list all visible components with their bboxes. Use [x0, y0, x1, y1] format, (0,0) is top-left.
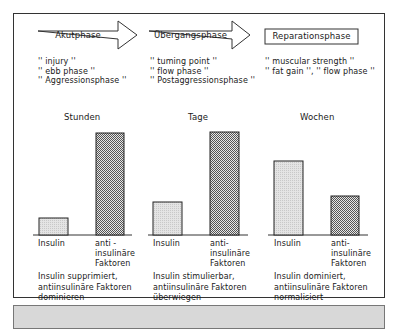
bar-label-line: insulinäre	[210, 249, 250, 259]
description-akutphase: Insulin supprimiert, antiinsulinäre Fakt…	[38, 272, 132, 304]
bar-label-line: anti-	[331, 239, 371, 249]
description-line: überwiegen	[153, 293, 247, 304]
quote-item: '' fat gain '', '' flow phase ''	[265, 67, 375, 77]
bar-insulin-stunden	[39, 218, 68, 235]
bar-insulin-tage	[153, 202, 182, 235]
bar-label-anti: anti - insulinäre Faktoren	[95, 239, 135, 269]
description-line: normalisiert	[274, 293, 368, 304]
quote-item: '' injury ''	[38, 57, 127, 67]
time-unit-wochen: Wochen	[300, 112, 334, 122]
description-line: Insulin dominiert,	[274, 272, 368, 283]
bar-label-line: anti-	[210, 239, 250, 249]
description-line: Insulin stimulierbar,	[153, 272, 247, 283]
bar-label-anti: anti- insulinäre Faktoren	[331, 239, 371, 269]
description-line: antiinsulinäre Faktoren	[153, 283, 247, 294]
description-line: antiinsulinäre Faktoren	[38, 283, 132, 294]
quote-item: '' tuming point ''	[150, 57, 255, 67]
caption-bar	[13, 305, 385, 329]
bar-insulin-wochen	[274, 161, 303, 235]
bar-anti-stunden	[96, 133, 124, 235]
bar-label-line: insulinäre	[331, 249, 371, 259]
time-unit-tage: Tage	[188, 112, 208, 122]
description-line: dominieren	[38, 293, 132, 304]
quotes-reparationsphase: '' muscular strength '' '' fat gain '', …	[265, 57, 375, 76]
phase-label-uebergangsphase: Übergangsphase	[149, 30, 232, 40]
bar-label-line: anti -	[95, 239, 135, 249]
bar-label-line: insulinäre	[95, 249, 135, 259]
quotes-akutphase: '' injury '' '' ebb phase '' '' Aggressi…	[38, 57, 127, 86]
quote-item: '' flow phase ''	[150, 67, 255, 77]
description-uebergangsphase: Insulin stimulierbar, antiinsulinäre Fak…	[153, 272, 247, 304]
description-line: Insulin supprimiert,	[38, 272, 132, 283]
bar-label-insulin: Insulin	[38, 239, 65, 249]
bar-label-insulin: Insulin	[153, 239, 180, 249]
bar-anti-wochen	[331, 196, 359, 235]
quotes-uebergangsphase: '' tuming point '' '' flow phase '' '' P…	[150, 57, 255, 86]
description-line: antiinsulinäre Faktoren	[274, 283, 368, 294]
quote-item: '' muscular strength ''	[265, 57, 375, 67]
bar-label-line: Faktoren	[210, 259, 250, 269]
phase-label-reparationsphase: Reparationsphase	[265, 31, 358, 41]
bar-anti-tage	[210, 132, 239, 235]
bar-label-insulin: Insulin	[274, 239, 301, 249]
quote-item: '' Postaggressionsphase ''	[150, 76, 255, 86]
bar-label-line: Faktoren	[331, 259, 371, 269]
phase-label-akutphase: Akutphase	[38, 30, 118, 40]
time-unit-stunden: Stunden	[64, 112, 100, 122]
quote-item: '' ebb phase ''	[38, 67, 127, 77]
bar-label-anti: anti- insulinäre Faktoren	[210, 239, 250, 269]
bar-label-line: Faktoren	[95, 259, 135, 269]
description-reparationsphase: Insulin dominiert, antiinsulinäre Faktor…	[274, 272, 368, 304]
quote-item: '' Aggressionsphase ''	[38, 76, 127, 86]
